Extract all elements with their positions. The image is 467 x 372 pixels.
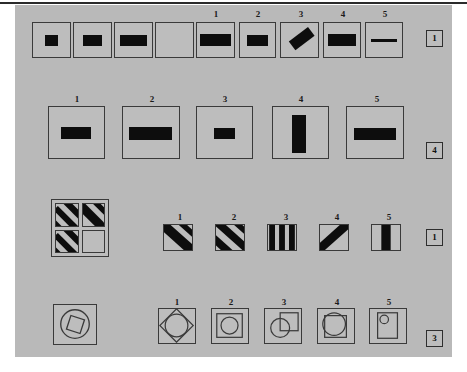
problem-3-option-number-5: 5 [379, 212, 399, 222]
problem-3-option-3[interactable] [267, 224, 297, 251]
problem-2-answer-box[interactable]: 4 [426, 142, 443, 159]
problem-4-option-3[interactable] [264, 308, 302, 344]
shape-wide-bar [354, 128, 396, 140]
problem-4-option-number-1: 1 [167, 297, 187, 307]
shape-square-with-large-circle [318, 309, 354, 343]
problem-1-option-2[interactable] [239, 22, 276, 58]
problem-4-option-1[interactable] [158, 308, 196, 344]
problem-1-sequence-cell-2[interactable] [73, 22, 112, 58]
problem-3-option-1[interactable] [163, 224, 193, 251]
problem-1-option-5[interactable] [365, 22, 403, 58]
problem-4-option-number-4: 4 [327, 297, 347, 307]
problem-2-option-number-4: 4 [291, 94, 311, 104]
problem-2-option-2[interactable] [122, 106, 180, 159]
problem-2-option-number-3: 3 [215, 94, 235, 104]
shape-diamond-and-circle [159, 309, 195, 343]
problem-2: 1 2 3 4 5 4 [15, 90, 452, 165]
problem-4-option-4[interactable] [317, 308, 355, 344]
scan-panel: 1 2 3 4 5 1 [15, 5, 452, 357]
problem-4-option-2[interactable] [211, 308, 249, 344]
problem-3-option-5[interactable] [371, 224, 401, 251]
problem-4-option-5[interactable] [369, 308, 407, 344]
matrix-cell-top-left[interactable] [55, 203, 79, 227]
matrix-cell-bottom-right-blank[interactable] [82, 230, 106, 254]
problem-3: 1 2 3 4 5 [15, 190, 452, 275]
problem-3-option-2[interactable] [215, 224, 245, 251]
problem-1-sequence-cell-3[interactable] [114, 22, 153, 58]
problem-2-option-4[interactable] [272, 106, 329, 159]
shape-medium-bar [247, 35, 268, 46]
problem-1-sequence-cell-4-blank[interactable] [155, 22, 194, 58]
problem-3-option-number-1: 1 [170, 212, 190, 222]
problem-1-sequence-cell-1[interactable] [32, 22, 71, 58]
problem-2-option-number-2: 2 [142, 94, 162, 104]
shape-small-bar [214, 128, 235, 139]
test-sheet-page: 1 2 3 4 5 1 [0, 0, 467, 372]
problem-3-option-number-2: 2 [224, 212, 244, 222]
shape-vertical-bar [292, 115, 306, 153]
shape-wide-bar [129, 127, 172, 140]
problem-4-answer-box[interactable]: 3 [426, 330, 443, 347]
problem-2-option-number-5: 5 [367, 94, 387, 104]
shape-rectangle-with-small-circle [370, 309, 406, 343]
problem-3-matrix[interactable] [51, 199, 109, 257]
shape-backslash-diagonal [320, 225, 348, 250]
problem-1-option-number-3: 3 [291, 9, 311, 19]
shape-single-vertical-stripe [372, 225, 400, 250]
shape-medium-bar [61, 127, 91, 139]
matrix-cell-bottom-left[interactable] [55, 230, 79, 254]
problem-4-option-number-3: 3 [274, 297, 294, 307]
problem-2-option-1[interactable] [48, 106, 105, 159]
shape-small-bar [83, 35, 102, 46]
shape-thin-line [371, 39, 397, 42]
problem-3-option-number-3: 3 [276, 212, 296, 222]
shape-wide-bar [200, 34, 231, 46]
problem-1-option-number-2: 2 [248, 9, 268, 19]
shape-small-square [45, 35, 58, 46]
shape-nested-square-with-circle [212, 309, 248, 343]
problem-4: 1 2 3 4 5 [15, 290, 452, 357]
problem-3-option-number-4: 4 [327, 212, 347, 222]
problem-2-option-5[interactable] [346, 106, 404, 159]
shape-double-diagonal-stripes [216, 225, 244, 250]
shape-medium-bar [120, 35, 147, 46]
problem-1-option-number-4: 4 [333, 9, 353, 19]
problem-1-answer-box[interactable]: 1 [426, 30, 443, 47]
problem-1-option-number-5: 5 [375, 9, 395, 19]
problem-2-option-3[interactable] [196, 106, 253, 159]
problem-4-prompt-cell[interactable] [53, 304, 97, 345]
matrix-cell-top-right[interactable] [82, 203, 106, 227]
shape-single-thick-diagonal [164, 225, 192, 250]
problem-1: 1 2 3 4 5 1 [15, 5, 452, 75]
shape-thick-diagonal-stripe [83, 204, 105, 226]
problem-2-option-number-1: 1 [67, 94, 87, 104]
shape-double-diagonal-stripes [56, 204, 78, 226]
problem-1-option-4[interactable] [323, 22, 361, 58]
problem-3-option-4[interactable] [319, 224, 349, 251]
shape-circle-with-tilted-square [54, 305, 96, 344]
problem-4-option-number-2: 2 [221, 297, 241, 307]
shape-diagonal-bar [281, 23, 317, 56]
problem-1-option-3[interactable] [280, 22, 319, 58]
shape-circle-overlapping-square [265, 309, 301, 343]
shape-double-diagonal-stripes [56, 231, 78, 253]
shape-thick-wide-bar [328, 34, 356, 46]
problem-4-option-number-5: 5 [379, 297, 399, 307]
shape-three-vertical-stripes [268, 225, 296, 250]
problem-1-option-1[interactable] [196, 22, 235, 58]
top-rule-divider [0, 2, 467, 4]
problem-3-answer-box[interactable]: 1 [426, 229, 443, 246]
problem-1-option-number-1: 1 [206, 9, 226, 19]
